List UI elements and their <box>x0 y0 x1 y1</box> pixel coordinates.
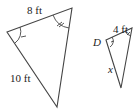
large-triangle: 8 ft 10 ft <box>7 4 72 107</box>
large-single-angle-arc <box>15 27 21 43</box>
small-top-side-label: 4 ft <box>113 23 128 35</box>
large-triangle-outline <box>7 8 72 107</box>
similar-triangles-diagram: 8 ft 10 ft 4 ft D x <box>0 0 140 112</box>
large-left-side-label: 10 ft <box>10 72 30 84</box>
large-single-tick-icon <box>21 36 26 37</box>
large-top-side-label: 8 ft <box>27 4 42 16</box>
small-left-side-label-x: x <box>107 63 113 75</box>
large-double-angle-arc <box>53 15 69 28</box>
small-vertex-label-d: D <box>92 36 101 48</box>
small-triangle-outline <box>106 28 132 88</box>
small-triangle: 4 ft D x <box>92 23 132 88</box>
